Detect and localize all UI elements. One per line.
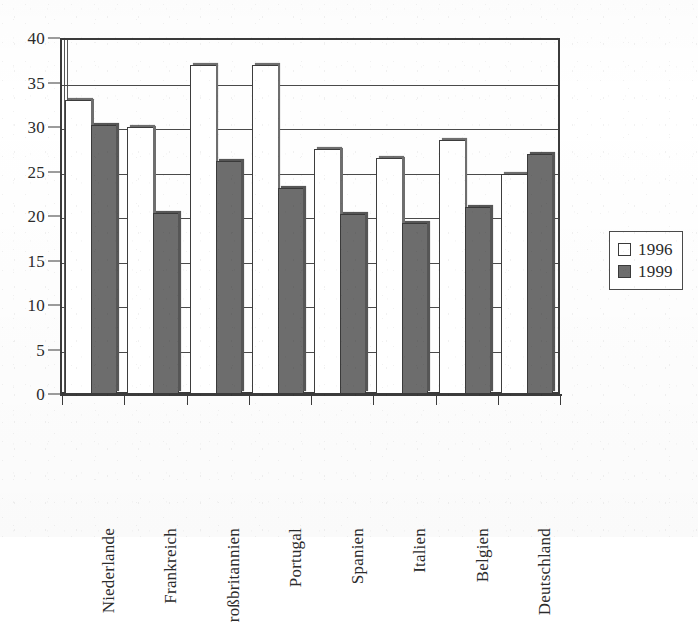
- bar-group: [62, 38, 124, 394]
- y-tick-label: 40: [28, 30, 45, 47]
- bar-1996[interactable]: [314, 149, 340, 394]
- y-tick-label: 10: [28, 297, 45, 314]
- y-tick-mark: [48, 260, 60, 261]
- y-tick-mark: [48, 305, 60, 306]
- x-axis-label: Deutschland: [536, 528, 553, 615]
- bar-1999[interactable]: [465, 207, 491, 394]
- bar-1999[interactable]: [216, 161, 242, 394]
- bar-group: [124, 38, 186, 394]
- x-axis-label: Niederlande: [100, 528, 117, 613]
- bar-group: [187, 38, 249, 394]
- bar-1999[interactable]: [340, 214, 366, 394]
- bar-1996[interactable]: [501, 174, 527, 394]
- bar-group: [311, 38, 373, 394]
- x-axis-label: Belgien: [474, 528, 491, 582]
- y-tick-label: 0: [36, 386, 45, 403]
- y-tick-label: 20: [28, 208, 45, 225]
- x-axis-labels: NiederlandeFrankreichroßbritannienPortug…: [60, 404, 562, 534]
- x-axis-label: Portugal: [287, 528, 304, 587]
- bar-group: [436, 38, 498, 394]
- y-tick-label: 5: [36, 341, 45, 358]
- legend: 1996 1999: [609, 231, 683, 290]
- y-tick-label: 35: [28, 74, 45, 91]
- x-axis-label: Frankreich: [162, 528, 179, 604]
- bar-1999[interactable]: [527, 154, 553, 394]
- y-axis: 0510152025303540: [0, 30, 62, 406]
- bar-1996[interactable]: [65, 100, 91, 394]
- y-tick-mark: [48, 349, 60, 350]
- x-axis-label: Spanien: [349, 528, 366, 584]
- legend-swatch-1999-icon: [618, 265, 631, 278]
- y-tick-mark: [48, 127, 60, 128]
- bar-group: [249, 38, 311, 394]
- y-tick-label: 25: [28, 163, 45, 180]
- bar-1996[interactable]: [252, 65, 278, 394]
- bar-group: [373, 38, 435, 394]
- y-tick-label: 30: [28, 119, 45, 136]
- bar-1996[interactable]: [439, 140, 465, 394]
- bar-1999[interactable]: [153, 213, 179, 394]
- bar-1996[interactable]: [190, 65, 216, 394]
- legend-label-1996: 1996: [638, 241, 673, 258]
- bar-series-container: [62, 38, 560, 394]
- bar-1999[interactable]: [402, 223, 428, 394]
- x-axis-label: roßbritannien: [225, 528, 242, 622]
- legend-swatch-1996-icon: [618, 243, 631, 256]
- legend-item-1999[interactable]: 1999: [618, 260, 673, 282]
- bar-1999[interactable]: [278, 188, 304, 394]
- y-tick-mark: [48, 82, 60, 83]
- y-tick-mark: [48, 216, 60, 217]
- x-axis-label: Italien: [411, 528, 428, 573]
- legend-item-1996[interactable]: 1996: [618, 238, 673, 260]
- bar-1996[interactable]: [127, 127, 153, 394]
- y-tick-mark: [48, 38, 60, 39]
- legend-label-1999: 1999: [638, 263, 673, 280]
- bar-group: [498, 38, 560, 394]
- y-tick-mark: [48, 394, 60, 395]
- bar-1999[interactable]: [91, 125, 117, 394]
- bar-1996[interactable]: [376, 158, 402, 394]
- y-tick-label: 15: [28, 252, 45, 269]
- y-tick-mark: [48, 171, 60, 172]
